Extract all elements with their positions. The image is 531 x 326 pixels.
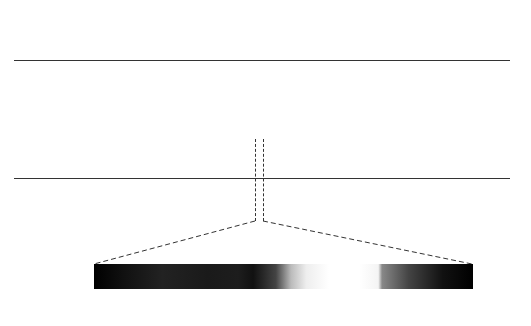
visible-spectrum-bar	[94, 264, 473, 289]
